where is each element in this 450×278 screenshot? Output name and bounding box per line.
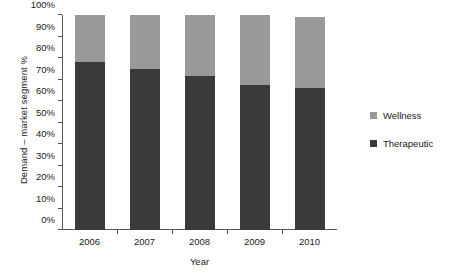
y-tick-label: 60% [36,85,55,96]
x-tick-mark [227,230,228,234]
y-tick-label: 0% [41,214,55,225]
y-axis-line [62,15,63,230]
bar-group[interactable] [295,15,325,230]
legend-label: Wellness [383,110,421,121]
y-tick-mark [58,100,62,101]
y-tick-label: 30% [36,149,55,160]
legend-item-therapeutic[interactable]: Therapeutic [370,138,446,149]
plot-area: 0%10%20%30%40%50%60%70%80%90%100% 200620… [62,15,337,230]
chart-figure: Demand – market segment % 0%10%20%30%40%… [0,0,450,278]
y-tick-label: 50% [36,106,55,117]
bar-segment-wellness[interactable] [185,15,215,76]
legend-swatch-icon [370,112,377,119]
bar-group[interactable] [130,15,160,230]
bar-group[interactable] [75,15,105,230]
y-tick-mark [58,229,62,230]
legend-item-wellness[interactable]: Wellness [370,110,446,121]
bar-segment-wellness[interactable] [75,15,105,62]
bar-group[interactable] [240,15,270,230]
x-tick-label: 2008 [189,236,210,247]
y-tick-mark [58,208,62,209]
x-tick-label: 2010 [299,236,320,247]
bar-segment-wellness[interactable] [295,17,325,88]
chart-legend: WellnessTherapeutic [370,110,446,166]
y-tick-mark [58,165,62,166]
y-tick-mark [58,57,62,58]
y-axis-title: Demand – market segment % [16,5,32,235]
y-tick-mark [58,143,62,144]
bar-segment-therapeutic[interactable] [240,85,270,230]
x-tick-label: 2009 [244,236,265,247]
bar-segment-therapeutic[interactable] [185,76,215,230]
x-tick-mark [117,230,118,234]
x-tick-label: 2006 [79,236,100,247]
legend-label: Therapeutic [383,138,433,149]
y-tick-label: 70% [36,63,55,74]
x-tick-label: 2007 [134,236,155,247]
bar-segment-wellness[interactable] [130,15,160,69]
y-tick-label: 10% [36,192,55,203]
x-axis-title: Year [62,256,337,267]
bar-segment-therapeutic[interactable] [295,88,325,230]
legend-swatch-icon [370,140,377,147]
bar-group[interactable] [185,15,215,230]
y-tick-mark [58,122,62,123]
bar-segment-therapeutic[interactable] [75,62,105,230]
bar-segment-therapeutic[interactable] [130,69,160,230]
y-tick-mark [58,186,62,187]
y-tick-mark [58,79,62,80]
x-tick-mark [172,230,173,234]
y-tick-mark [58,36,62,37]
y-tick-mark [58,14,62,15]
y-tick-label: 100% [31,0,55,10]
x-tick-mark [282,230,283,234]
y-tick-label: 90% [36,20,55,31]
y-tick-label: 20% [36,171,55,182]
bar-segment-wellness[interactable] [240,15,270,85]
y-tick-label: 80% [36,42,55,53]
y-tick-label: 40% [36,128,55,139]
